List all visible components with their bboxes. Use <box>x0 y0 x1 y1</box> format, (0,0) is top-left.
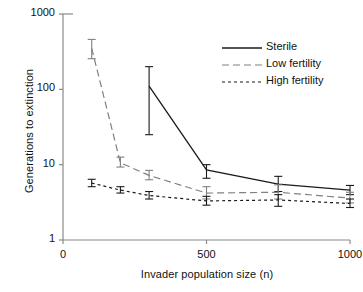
y-axis-tick-label: 1 <box>21 232 55 244</box>
y-axis-tick-label: 1000 <box>21 6 55 18</box>
error-bar <box>274 195 282 207</box>
error-bar <box>203 196 211 205</box>
x-axis-tick-label: 0 <box>43 248 83 260</box>
axis-lines <box>63 14 350 240</box>
x-axis-tick-label: 1000 <box>330 248 363 260</box>
y-axis-tick-label: 10 <box>21 157 55 169</box>
legend-label-high-fertility: High fertility <box>266 74 323 86</box>
error-bar <box>116 157 124 167</box>
error-bar <box>145 67 153 135</box>
y-axis-tick-label: 100 <box>21 81 55 93</box>
x-axis-title: Invader population size (n) <box>63 268 351 280</box>
chart-figure: Generations to extinction Invader popula… <box>0 0 363 292</box>
x-axis-tick-label: 500 <box>187 248 227 260</box>
error-bar <box>145 170 153 179</box>
legend <box>222 48 262 82</box>
x-axis-ticks <box>63 240 350 244</box>
error-bar <box>88 179 96 186</box>
y-axis-title: Generations to extinction <box>23 46 35 216</box>
legend-label-low-fertility: Low fertility <box>266 57 321 69</box>
legend-label-sterile: Sterile <box>266 40 297 52</box>
error-bar <box>88 39 96 58</box>
